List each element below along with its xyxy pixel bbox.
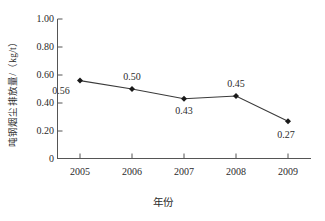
x-tick-label: 2006 [110,167,154,177]
x-axis-title: 年份 [0,194,325,209]
x-tick-label: 2005 [58,167,102,177]
x-tick-label: 2007 [162,167,206,177]
chart-figure: 吨钢烟尘排放量/（kg/t） 1.00 0.80 0.60 0.40 0.20 … [0,0,325,221]
x-axis-tick-labels: 2005 2006 2007 2008 2009 [0,0,325,221]
x-tick-label: 2009 [266,167,310,177]
x-tick-label: 2008 [214,167,258,177]
